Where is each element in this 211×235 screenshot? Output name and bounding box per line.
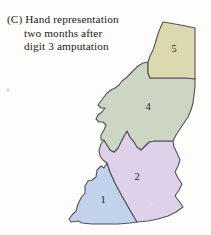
scan-speck-left [6,88,10,92]
digit-4-label: 4 [145,101,151,112]
digit-2-label: 2 [134,171,139,182]
scan-speck-right [150,202,153,205]
cortical-map-svg: 1245 [0,0,211,235]
figure-panel-c: (C) Hand representation two months after… [0,0,211,235]
cortical-map: 1245 [0,0,211,235]
digit-5-label: 5 [171,43,176,54]
digit-1-label: 1 [100,194,105,205]
